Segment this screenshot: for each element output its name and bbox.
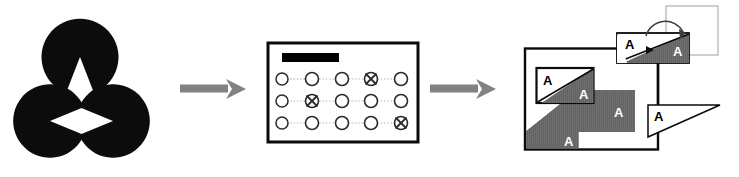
visual-search-display-panel [255,30,425,150]
stage1-label: Three black pac-man disks forming an ill… [200,0,201,1]
grid-circle[interactable] [306,117,319,130]
a-gray-rect: A [614,105,624,120]
inner-rectangle: A A [537,68,594,103]
grid-circle[interactable] [276,95,288,107]
a-inner-gray: A [579,87,589,102]
arrow-head [226,79,246,99]
a-top-white: A [625,37,635,52]
arrow-shaft [180,85,228,93]
grid-circle[interactable] [395,73,408,86]
flow-arrow-2 [430,78,500,104]
pacman-bottom-right-icon [79,84,150,158]
grid-circle[interactable] [276,117,288,129]
flow-arrow-1 [180,78,250,104]
kanizsa-triangle-svg [0,0,200,177]
grid-circle[interactable] [336,95,349,108]
grid-circle[interactable] [336,73,349,86]
letter-a-composition-svg: A A A A A A [515,0,739,177]
letter-a-composition-panel: A A A A A A [515,0,739,177]
kanizsa-triangle-panel: Three black pac-man disks forming an ill… [0,0,200,177]
a-inner-white: A [543,73,553,88]
grid-circle[interactable] [365,95,378,108]
pacman-top-icon [41,19,118,93]
a-right-triangle: A [654,109,664,124]
grid-circle[interactable] [395,95,408,108]
arrow-shaft [430,85,478,93]
grid-circle-marked[interactable] [306,95,319,108]
process-figure: Three black pac-man disks forming an ill… [0,0,739,177]
a-main-wedge: A [564,134,574,149]
grid-circle[interactable] [306,73,319,86]
grid-circle-marked[interactable] [395,117,408,130]
grid-display-svg [255,30,425,150]
arrow-right-icon [430,78,500,100]
grid-circle[interactable] [365,117,378,130]
grid-circle[interactable] [276,73,288,85]
arrow-right-icon [180,78,250,100]
top-rectangle: A A [617,33,689,63]
a-top-gray: A [673,44,683,59]
top-bar [282,53,339,62]
arrow-head [476,79,496,99]
right-triangle: A [648,105,720,137]
grid-circle-marked[interactable] [365,73,378,86]
pacman-bottom-left-icon [13,84,84,158]
grid-circle[interactable] [336,117,349,130]
